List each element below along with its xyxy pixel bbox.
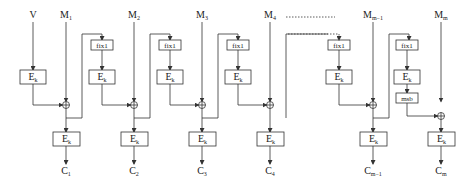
fix-box-2-label: fix1 (96, 42, 108, 50)
message-label-3: M3 (196, 9, 208, 21)
encryption-chain-diagram: VEkM1EkC1M2EkC2M3EkC3M4EkC4Mm−1EkCm−1MmE… (0, 0, 476, 183)
message-label-2: M2 (128, 9, 140, 21)
ciphertext-label-5: Cm−1 (364, 165, 382, 177)
iv-label: V (29, 9, 37, 20)
encrypt-to-xor-2 (102, 84, 131, 105)
gap-feedback-dotted (288, 34, 339, 40)
message-label-6: Mm (434, 9, 448, 21)
iv-to-xor-1 (33, 84, 63, 105)
ciphertext-label-2: C2 (129, 165, 139, 177)
fix-box-6-label: fix1 (401, 42, 413, 50)
fix-box-5-label: fix1 (333, 42, 345, 50)
message-label-1: M1 (60, 9, 72, 21)
msb-box-label: msb (401, 95, 413, 103)
message-label-4: M4 (264, 9, 276, 21)
fix-box-4-label: fix1 (232, 42, 244, 50)
encrypt-to-xor-4 (238, 84, 267, 105)
message-label-5: Mm−1 (363, 9, 383, 21)
fix-box-3-label: fix1 (164, 42, 176, 50)
ciphertext-label-1: C1 (61, 165, 71, 177)
gap-feedback-solid (286, 34, 328, 118)
ciphertext-label-6: Cm (435, 165, 447, 177)
ciphertext-label-4: C4 (265, 165, 275, 177)
encrypt-to-xor-5 (339, 84, 370, 105)
ciphertext-label-3: C3 (197, 165, 207, 177)
msb-to-xor (407, 103, 438, 116)
encrypt-to-xor-3 (170, 84, 199, 105)
